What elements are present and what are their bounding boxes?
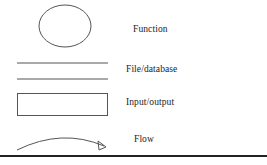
legend-label-flow: Flow bbox=[134, 134, 154, 145]
function-ellipse-shape bbox=[39, 5, 91, 47]
legend-label-file-database: File/database bbox=[126, 64, 177, 75]
input-output-rectangle-shape bbox=[18, 94, 108, 116]
bottom-divider-rule bbox=[0, 155, 267, 157]
legend-label-function: Function bbox=[133, 24, 168, 35]
flowchart-symbol-legend: Function File/database Input/output Flow bbox=[0, 0, 267, 165]
flow-arc-shape bbox=[17, 138, 104, 150]
legend-label-input-output: Input/output bbox=[126, 97, 174, 108]
